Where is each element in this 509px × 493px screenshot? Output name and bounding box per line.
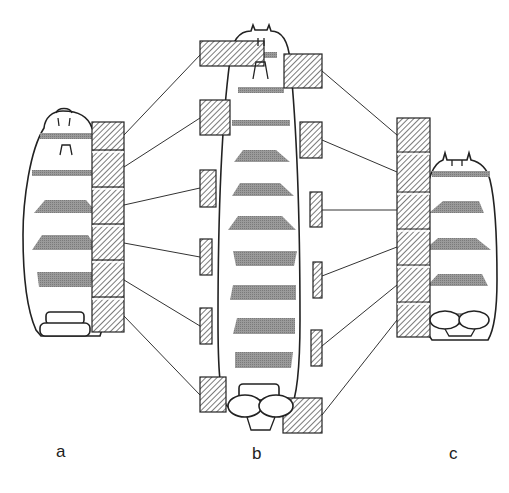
body-a-band [40,133,96,139]
body-b-band [238,87,284,93]
label-c: c [449,444,458,464]
body-b-band [232,120,290,126]
body-a-hatched-column [92,122,124,332]
body-a-segment-band [32,235,98,250]
body-b-right-block [313,262,322,298]
connector-line [124,55,200,135]
label-a: a [56,442,65,462]
body-b-segment-band [233,251,297,266]
body-a-band [32,170,100,176]
body-b-right-block [310,192,322,227]
body-b-right-block [284,54,322,88]
connector-line [322,320,397,415]
body-b-right-block [311,330,322,366]
body-b-left-block [200,308,212,344]
body-c-tail-lobe [430,311,460,329]
body-b-tail-lobe [228,395,262,417]
connector-line [322,247,397,276]
connector-line [124,118,200,167]
body-b-left-block [200,41,264,66]
connector-line [124,188,200,205]
body-b-left-block [200,377,226,412]
body-b-segment-band [230,285,296,300]
body-b-left-block [200,100,230,135]
connector-line [124,243,200,257]
body-b-segment-band [233,318,295,334]
body-b-left-block [200,170,216,207]
body-b-tail-tip [247,417,275,430]
body-a-tail-plate [40,323,90,336]
body-b-segment-band [235,352,293,368]
body-c-tail-lobe [459,311,489,329]
body-b-tail-lobe [259,395,293,417]
connector-line [322,140,397,172]
body-c-band [432,171,490,177]
segment-comparison-diagram [0,0,509,493]
connector-line [124,316,200,395]
body-b-left-block [200,239,212,275]
connector-line [124,280,200,326]
label-b: b [252,444,261,464]
body-a-segment-band [34,200,97,213]
connector-line [322,285,397,346]
body-a-segment-band [37,272,93,287]
body-b-right-block [300,122,322,158]
connector-line [322,71,397,135]
